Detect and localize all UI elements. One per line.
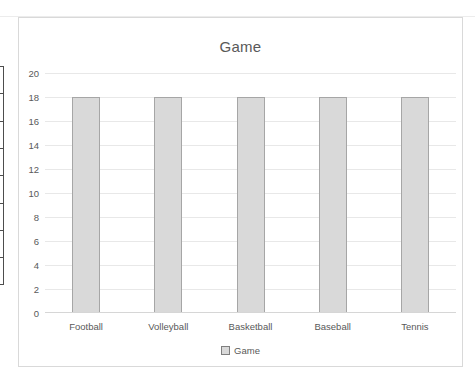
y-axis-tick-label: 8 bbox=[34, 212, 39, 223]
bar-football[interactable] bbox=[72, 97, 100, 313]
bar-baseball[interactable] bbox=[319, 97, 347, 313]
bar-basketball[interactable] bbox=[237, 97, 265, 313]
x-axis-line bbox=[45, 312, 456, 313]
x-axis-category-label: Baseball bbox=[314, 321, 350, 332]
y-axis-tick-label: 12 bbox=[28, 164, 39, 175]
y-axis-tick-label: 18 bbox=[28, 92, 39, 103]
chart-object[interactable]: Game 02468101214161820 FootballVolleybal… bbox=[18, 17, 463, 367]
y-axis-tick-label: 14 bbox=[28, 140, 39, 151]
gridline bbox=[45, 73, 456, 74]
x-axis-category-label: Tennis bbox=[401, 321, 428, 332]
fragment-tick-mark bbox=[0, 230, 4, 231]
x-axis-category-label: Football bbox=[69, 321, 103, 332]
fragment-tick-mark bbox=[0, 148, 4, 149]
plot-area: 02468101214161820 FootballVolleyballBask… bbox=[45, 73, 456, 313]
x-axis: FootballVolleyballBasketballBaseballTenn… bbox=[45, 321, 456, 335]
y-axis-tick-label: 10 bbox=[28, 188, 39, 199]
fragment-tick-mark bbox=[0, 284, 4, 285]
legend-marker-icon bbox=[221, 346, 230, 355]
chart-title[interactable]: Game bbox=[19, 38, 462, 55]
legend-label: Game bbox=[234, 345, 260, 356]
y-axis-tick-label: 16 bbox=[28, 116, 39, 127]
fragment-tick-mark bbox=[0, 93, 4, 94]
y-axis: 02468101214161820 bbox=[13, 73, 39, 313]
fragment-tick-mark bbox=[0, 121, 4, 122]
fragment-tick-mark bbox=[0, 175, 4, 176]
y-axis-tick-label: 2 bbox=[34, 284, 39, 295]
y-axis-tick-label: 20 bbox=[28, 68, 39, 79]
y-axis-tick-label: 0 bbox=[34, 308, 39, 319]
legend[interactable]: Game bbox=[19, 345, 462, 356]
fragment-tick-mark bbox=[0, 66, 4, 67]
y-axis-tick-label: 6 bbox=[34, 236, 39, 247]
x-axis-category-label: Volleyball bbox=[148, 321, 188, 332]
fragment-tick-mark bbox=[0, 257, 4, 258]
bar-volleyball[interactable] bbox=[154, 97, 182, 313]
y-axis-tick-label: 4 bbox=[34, 260, 39, 271]
bar-tennis[interactable] bbox=[401, 97, 429, 313]
cropped-chart-fragment bbox=[0, 60, 5, 288]
fragment-tick-mark bbox=[0, 203, 4, 204]
x-axis-category-label: Basketball bbox=[229, 321, 273, 332]
